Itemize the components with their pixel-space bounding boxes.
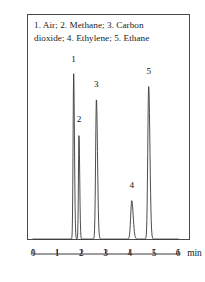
x-tick-label: 2 — [71, 248, 91, 258]
x-tick-label: 6 — [168, 248, 188, 258]
x-tick-label: 4 — [120, 248, 140, 258]
x-tick-label: 3 — [96, 248, 116, 258]
x-tick-label: 0 — [23, 248, 43, 258]
peak-label-3: 3 — [89, 79, 103, 89]
peak-label-4: 4 — [125, 180, 139, 190]
peak-label-5: 5 — [142, 66, 156, 76]
x-tick-label: 5 — [144, 248, 164, 258]
x-axis — [0, 0, 205, 282]
x-tick-label: 1 — [47, 248, 67, 258]
peak-label-1: 1 — [67, 54, 81, 64]
chromatogram-figure: 1. Air; 2. Methane; 3. Carbon dioxide; 4… — [0, 0, 205, 282]
peak-label-2: 2 — [72, 114, 86, 124]
x-axis-unit-label: min — [187, 248, 202, 258]
